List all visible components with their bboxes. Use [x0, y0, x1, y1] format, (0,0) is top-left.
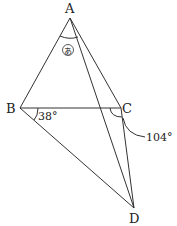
unknown-angle-label: あ [64, 47, 72, 56]
geometry-diagram: A B C D あ 38° 104° [0, 0, 177, 226]
segment-cd [121, 108, 134, 208]
point-label-c: C [122, 101, 132, 116]
point-label-d: D [129, 211, 139, 226]
angle-label-104: 104° [146, 131, 173, 144]
angle-arc-c [110, 108, 122, 117]
angle-arc-a [60, 36, 78, 38]
point-label-a: A [64, 1, 75, 16]
point-label-b: B [6, 101, 16, 116]
angle-label-38: 38° [38, 110, 58, 123]
leader-line-104 [123, 118, 145, 137]
segment-ab [20, 18, 70, 108]
